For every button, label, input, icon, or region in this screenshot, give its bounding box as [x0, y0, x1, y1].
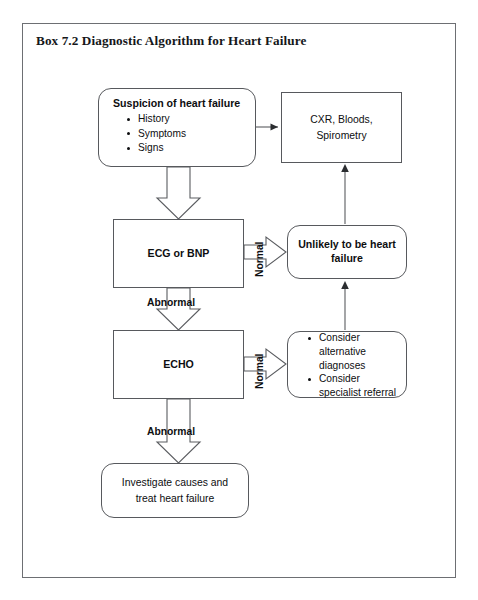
node-suspicion-of-heart-failure[interactable]: Suspicion of heart failure History Sympt…: [98, 88, 256, 167]
node-cxr-line-1: CXR, Bloods,: [310, 114, 372, 125]
edge-label-abnormal-ecg-to-echo: Abnormal: [147, 297, 195, 308]
node-consider-bullet-list: Consider alternative diagnoses Consider …: [292, 331, 400, 400]
edge-label-abnormal-echo-to-investigate: Abnormal: [147, 426, 195, 437]
node-echo[interactable]: ECHO: [113, 330, 244, 399]
node-echo-label: ECHO: [163, 358, 194, 372]
list-item: Consider alternative diagnoses: [308, 331, 400, 372]
node-unlikely-to-be-heart-failure[interactable]: Unlikely to be heart failure: [287, 225, 407, 279]
node-cxr-bloods-spirometry[interactable]: CXR, Bloods, Spirometry: [281, 92, 402, 163]
node-investigate-line-2: treat heart failure: [136, 493, 215, 504]
node-investigate-causes[interactable]: Investigate causes and treat heart failu…: [101, 463, 249, 518]
list-item: Signs: [127, 141, 245, 155]
figure-page: Box 7.2 Diagnostic Algorithm for Heart F…: [0, 0, 478, 600]
node-unlikely-text: Unlikely to be heart failure: [298, 238, 396, 266]
node-unlikely-line-1: Unlikely to be heart: [298, 238, 396, 250]
node-ecg-or-bnp[interactable]: ECG or BNP: [113, 219, 244, 288]
list-item: Symptoms: [127, 127, 245, 141]
edge-label-normal-ecg-to-unlikely: Normal: [254, 242, 265, 277]
node-cxr-text: CXR, Bloods, Spirometry: [310, 112, 372, 142]
node-investigate-text: Investigate causes and treat heart failu…: [122, 475, 228, 505]
list-item: Consider specialist referral: [308, 372, 400, 400]
node-consider-alternatives[interactable]: Consider alternative diagnoses Consider …: [287, 331, 407, 398]
node-ecg-label: ECG or BNP: [148, 247, 210, 261]
node-investigate-line-1: Investigate causes and: [122, 477, 228, 488]
node-unlikely-line-2: failure: [331, 252, 363, 264]
edge-label-normal-echo-to-consider: Normal: [254, 354, 265, 389]
node-cxr-line-2: Spirometry: [316, 130, 366, 141]
list-item: History: [127, 112, 245, 126]
node-suspicion-heading: Suspicion of heart failure: [111, 97, 245, 110]
figure-title: Box 7.2 Diagnostic Algorithm for Heart F…: [36, 33, 306, 49]
node-suspicion-bullet-list: History Symptoms Signs: [111, 112, 245, 155]
